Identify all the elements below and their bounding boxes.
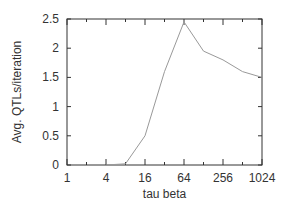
y-tick-label: 0.5 <box>42 129 59 143</box>
data-series-line <box>106 22 262 165</box>
y-axis-label: Avg. QTLs/iteration <box>10 41 24 144</box>
plot-frame <box>67 19 262 165</box>
x-tick-label: 1024 <box>249 171 276 185</box>
y-tick-label: 1 <box>52 100 59 114</box>
y-tick-label: 0 <box>52 158 59 172</box>
y-tick-label: 2.5 <box>42 12 59 26</box>
y-axis-ticks: 00.511.522.5 <box>42 12 262 172</box>
line-chart: 00.511.522.5 1416642561024 tau beta Avg.… <box>0 0 292 212</box>
x-tick-label: 1 <box>64 171 71 185</box>
y-tick-label: 2 <box>52 41 59 55</box>
x-axis-label: tau beta <box>143 187 187 201</box>
x-tick-label: 4 <box>103 171 110 185</box>
x-tick-label: 64 <box>177 171 191 185</box>
x-tick-label: 256 <box>213 171 233 185</box>
x-axis-ticks: 1416642561024 <box>64 19 276 185</box>
x-tick-label: 16 <box>138 171 152 185</box>
y-tick-label: 1.5 <box>42 70 59 84</box>
